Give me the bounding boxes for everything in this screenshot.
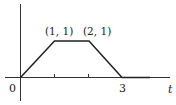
t-axis-label: t (168, 83, 173, 96)
trapezoid-graph: (1, 1) (2, 1) 0 3 t (0, 0, 176, 105)
tick-label-3: 3 (119, 82, 126, 95)
origin-label: 0 (9, 82, 16, 95)
function-line (21, 41, 151, 78)
point-label-1-1: (1, 1) (45, 25, 73, 37)
point-label-2-1: (2, 1) (83, 25, 111, 37)
